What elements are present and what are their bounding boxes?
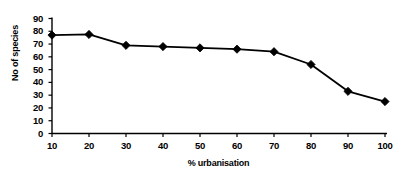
data-point-markers bbox=[48, 30, 389, 105]
data-series-line bbox=[52, 34, 385, 101]
chart-container: No of species % urbanisation 01020304050… bbox=[0, 0, 401, 178]
axis-lines bbox=[52, 18, 387, 134]
plot-area bbox=[0, 0, 401, 178]
